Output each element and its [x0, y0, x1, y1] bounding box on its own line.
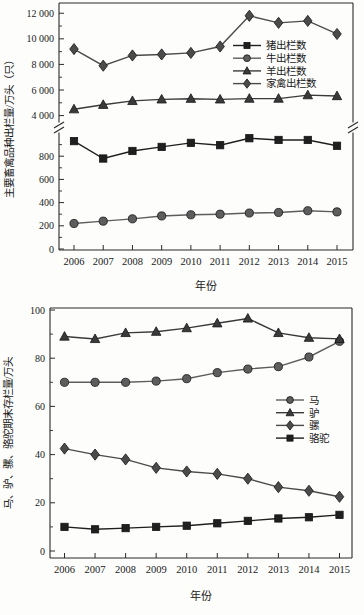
legend-label-horse: 马: [309, 395, 319, 406]
x-tick-label: 2008: [122, 256, 143, 267]
y-axis-label: 马、驴、骡、骆驼期末存栏量/万头: [2, 357, 14, 510]
y-tick-label: 80: [35, 353, 45, 364]
livestock-slaughter-chart: 2006200720082009201020112012201320142015…: [0, 0, 364, 300]
livestock-inventory-chart: 2006200720082009201020112012201320142015…: [0, 300, 364, 615]
x-tick-label: 2009: [146, 564, 167, 575]
x-tick-label: 2011: [207, 564, 228, 575]
x-tick-label: 2012: [239, 256, 260, 267]
x-axis-label: 年份: [195, 279, 217, 292]
x-tick-label: 2014: [297, 256, 319, 267]
x-tick-label: 2006: [54, 564, 75, 575]
legend-label-camel: 骆驼: [309, 432, 330, 444]
y-tick-label: 4 000: [32, 110, 55, 121]
x-tick-label: 2015: [329, 564, 350, 575]
y-tick-label: 60: [35, 401, 45, 412]
slaughter-chart-canvas: 2006200720082009201020112012201320142015…: [0, 0, 364, 300]
legend-label-donkey: 驴: [309, 407, 319, 419]
y-tick-label: 0: [49, 244, 54, 255]
y-tick-label: 10 000: [27, 33, 55, 44]
y-tick-label: 6 000: [32, 85, 55, 96]
inventory-chart-canvas: 2006200720082009201020112012201320142015…: [0, 300, 364, 615]
legend-label-pig: 猪出栏数: [266, 39, 307, 51]
y-tick-label: 40: [35, 449, 45, 460]
y-tick-label: 200: [39, 220, 54, 231]
x-tick-label: 2007: [93, 256, 114, 267]
y-tick-label: 100: [30, 305, 45, 316]
y-tick-label: 8 000: [32, 59, 55, 70]
legend-label-sheep: 羊出栏数: [266, 65, 307, 77]
y-tick-label: 20: [35, 497, 45, 508]
x-tick-label: 2013: [268, 256, 289, 267]
x-tick-label: 2009: [151, 256, 172, 267]
y-tick-label: 600: [39, 174, 54, 185]
x-tick-label: 2010: [176, 564, 197, 575]
y-tick-label: 12 000: [27, 8, 55, 19]
y-axis-label: 主要畜禽品种出栏量/万头（只）: [3, 55, 15, 198]
x-tick-label: 2006: [64, 256, 85, 267]
x-tick-label: 2015: [327, 256, 348, 267]
legend-label-poultry: 家禽出栏数: [266, 77, 317, 89]
x-tick-label: 2010: [180, 256, 201, 267]
x-axis-label: 年份: [190, 589, 212, 602]
x-tick-label: 2011: [210, 256, 231, 267]
x-tick-label: 2007: [85, 564, 106, 575]
y-tick-label: 0: [40, 546, 45, 557]
x-tick-label: 2013: [268, 564, 289, 575]
y-tick-label: 800: [39, 151, 54, 162]
x-tick-label: 2012: [237, 564, 258, 575]
x-tick-label: 2008: [115, 564, 136, 575]
legend-label-mule: 骡: [309, 420, 320, 431]
legend-label-cattle: 牛出栏数: [266, 52, 307, 64]
x-tick-label: 2014: [298, 564, 320, 575]
y-tick-label: 400: [39, 197, 54, 208]
